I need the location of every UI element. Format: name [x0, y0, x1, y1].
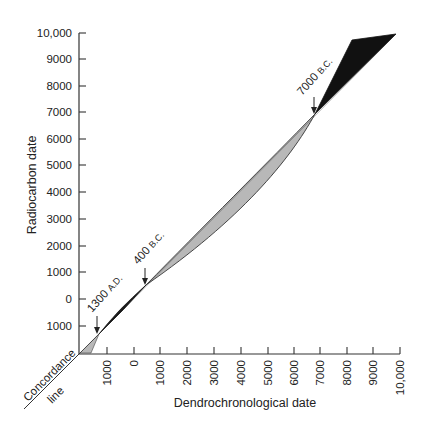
y-tick-label: 8000 — [46, 80, 72, 92]
x-tick-label: 1000 — [154, 360, 166, 386]
x-ticks — [107, 347, 400, 354]
annotation-400bc: 400B.C. — [131, 229, 166, 267]
y-tick-label: 10,000 — [37, 27, 72, 39]
y-tick-label: 9000 — [46, 53, 72, 65]
y-ticks — [79, 33, 86, 326]
x-tick-label: 9000 — [367, 360, 379, 386]
x-tick-label: 8000 — [341, 360, 353, 386]
x-tick-label: 1000 — [101, 360, 113, 386]
annotation-1300ad: 1300A.D. — [85, 272, 125, 314]
y-tick-label: 7000 — [46, 106, 72, 118]
y-tick-label: 0 — [66, 293, 72, 305]
x-tick-label: 5000 — [262, 360, 274, 386]
annotation-arrows — [94, 97, 317, 334]
y-axis-title: Radiocarbon date — [25, 136, 39, 235]
y-tick-label: 5000 — [46, 159, 72, 171]
x-axis-title: Dendrochronological date — [174, 396, 317, 410]
gray-lens-400bc-7000bc — [146, 114, 315, 285]
y-tick-label: 3000 — [46, 213, 72, 225]
y-tick-label: 6000 — [46, 133, 72, 145]
concordance-line — [80, 34, 396, 353]
x-tick-label: 2000 — [181, 360, 193, 386]
concordance-label-line2: line — [45, 384, 66, 405]
chart-canvas: 10,000 9000 8000 7000 6000 5000 4000 300… — [0, 0, 434, 429]
y-tick-label: 1000 — [46, 320, 72, 332]
x-tick-label: 7000 — [314, 360, 326, 386]
x-tick-label: 0 — [128, 360, 140, 366]
x-tick-label: 4000 — [235, 360, 247, 386]
arrow-head-1300ad — [94, 327, 100, 334]
x-tick-labels: 1000 0 1000 2000 3000 4000 5000 6000 700… — [101, 360, 406, 395]
y-tick-label: 1000 — [46, 266, 72, 278]
y-tick-label: 2000 — [46, 240, 72, 252]
x-tick-label: 6000 — [288, 360, 300, 386]
x-tick-label: 10,000 — [394, 360, 406, 395]
y-tick-label: 4000 — [46, 186, 72, 198]
y-tick-labels: 10,000 9000 8000 7000 6000 5000 4000 300… — [37, 27, 72, 332]
x-tick-label: 3000 — [208, 360, 220, 386]
